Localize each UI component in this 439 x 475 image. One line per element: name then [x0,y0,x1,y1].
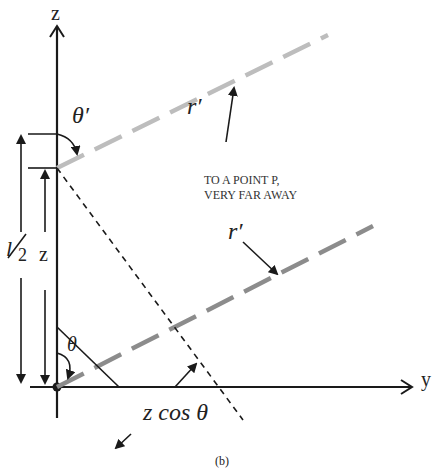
z-offset-dimension: z [39,171,48,383]
figure-caption: (b) [215,454,229,468]
theta-label: θ [67,333,77,355]
out-of-plane-arrow [116,434,131,448]
annotation-line2: VERY FAR AWAY [204,188,298,202]
z-axis: z [51,2,60,418]
half-length-dimension: l 2 [6,136,57,382]
perpendicular-construction-line [57,168,243,420]
ray-lower-r-prime [57,226,373,387]
theta-prime-arc-icon [28,134,77,154]
r-prime-lower-label: r′ [228,218,243,244]
y-axis-label: y [421,368,431,391]
y-axis: y [30,368,431,391]
z-offset-label: z [39,243,48,265]
far-point-arrow [226,88,234,142]
theta-arc-icon [57,353,70,378]
r-prime-lower-pointer-arrow [243,242,277,274]
z-axis-label: z [51,2,60,24]
theta-prime-label: θ′ [72,102,90,128]
dipole-far-field-diagram: z y θ θ′ l 2 z r′ r′ TO A POINT P, [0,0,439,475]
r-prime-upper-label: r′ [187,93,202,119]
projection-label: z cos θ [142,399,208,425]
annotation-line1: TO A POINT P, [204,173,280,187]
half-length-denominator: 2 [18,245,27,265]
projection-text: z cos θ [142,399,208,425]
projection-arrow [175,364,196,387]
